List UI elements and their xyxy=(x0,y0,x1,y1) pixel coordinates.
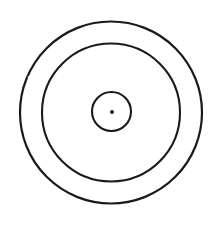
speck-artifact xyxy=(28,76,30,78)
figure-canvas xyxy=(0,0,220,229)
concentric-circles-diagram xyxy=(0,0,220,229)
background xyxy=(0,0,220,229)
center-dot xyxy=(110,110,114,114)
